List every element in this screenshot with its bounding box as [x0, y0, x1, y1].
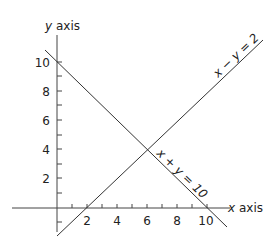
y-tick-label: 2	[42, 172, 50, 186]
y-ticks	[57, 62, 62, 222]
x-tick-label: 4	[113, 214, 121, 228]
x-tick-label: 2	[83, 214, 91, 228]
y-tick-label: 4	[42, 143, 50, 157]
x-ticks	[72, 204, 207, 208]
y-tick-label: 10	[35, 56, 50, 70]
line1-label: x − y = 2	[210, 31, 262, 81]
y-tick-label: 6	[42, 114, 50, 128]
x-axis-label: x axis	[227, 201, 263, 215]
x-tick-label: 10	[198, 214, 213, 228]
y-axis-label: y axis	[44, 19, 80, 33]
x-tick-label: 8	[173, 214, 181, 228]
line2-label: x + y = 10	[153, 145, 210, 201]
x-tick-label: 6	[143, 214, 151, 228]
line-x-plus-y-eq-10	[45, 50, 227, 227]
graph: 2 4 6 8 10 2 4 6 8 10 y axis x axis x − …	[0, 0, 272, 252]
y-tick-label: 8	[42, 85, 50, 99]
